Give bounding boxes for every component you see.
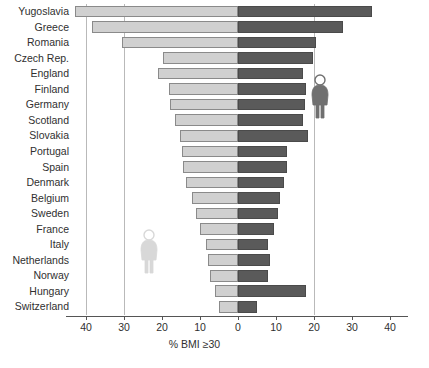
axis-tick	[162, 316, 163, 320]
category-label: Romania	[0, 35, 69, 51]
bar-men	[238, 161, 287, 173]
chart-row: Czech Rep.	[0, 51, 429, 67]
axis-tick	[200, 316, 201, 320]
chart-row: Netherlands	[0, 253, 429, 269]
chart-row: Sweden	[0, 206, 429, 222]
category-label: Switzerland	[0, 299, 69, 315]
bar-women	[186, 177, 238, 189]
axis-tick	[352, 316, 353, 320]
bar-women	[219, 301, 238, 313]
category-label: Czech Rep.	[0, 51, 69, 67]
category-label: Netherlands	[0, 253, 69, 269]
bar-women	[183, 161, 238, 173]
chart-row: Hungary	[0, 284, 429, 300]
bar-men	[238, 192, 280, 204]
bar-women	[175, 114, 238, 126]
axis-tick-label: 30	[109, 321, 139, 333]
bar-women	[75, 6, 238, 18]
axis-tick-label: 20	[299, 321, 329, 333]
bar-men	[238, 270, 268, 282]
category-label: Portugal	[0, 144, 69, 160]
axis-tick	[238, 316, 239, 320]
category-label: Finland	[0, 82, 69, 98]
axis-tick-label: 20	[147, 321, 177, 333]
bar-men	[238, 223, 274, 235]
category-label: Denmark	[0, 175, 69, 191]
female-figure-icon	[138, 229, 160, 279]
category-label: Sweden	[0, 206, 69, 222]
bar-men	[238, 68, 303, 80]
category-label: Scotland	[0, 113, 69, 129]
chart-row: Romania	[0, 35, 429, 51]
bar-women	[196, 208, 238, 220]
bar-men	[238, 6, 372, 18]
chart-row: Norway	[0, 268, 429, 284]
axis-tick-label: 10	[185, 321, 215, 333]
bar-men	[238, 83, 306, 95]
category-label: Germany	[0, 97, 69, 113]
bar-women	[92, 21, 238, 33]
category-label: Hungary	[0, 284, 69, 300]
bar-women	[122, 37, 238, 49]
axis-tick	[124, 316, 125, 320]
bar-women	[163, 52, 238, 64]
bar-women	[210, 270, 239, 282]
chart-row: Greece	[0, 20, 429, 36]
bar-men	[238, 239, 268, 251]
chart-row: Slovakia	[0, 128, 429, 144]
bar-men	[238, 177, 284, 189]
category-label: Belgium	[0, 191, 69, 207]
bar-men	[238, 114, 303, 126]
bar-women	[206, 239, 238, 251]
bar-women	[158, 68, 238, 80]
chart-row: Scotland	[0, 113, 429, 129]
axis-tick-label: 40	[375, 321, 405, 333]
category-label: England	[0, 66, 69, 82]
axis-tick	[86, 316, 87, 320]
axis-tick	[314, 316, 315, 320]
male-figure-icon	[309, 74, 331, 124]
bar-women	[170, 99, 238, 111]
chart-row: Italy	[0, 237, 429, 253]
axis-tick	[390, 316, 391, 320]
category-label: Spain	[0, 160, 69, 176]
bar-women	[208, 254, 238, 266]
chart-row: France	[0, 222, 429, 238]
x-axis-line	[66, 316, 408, 317]
axis-tick-label: 10	[261, 321, 291, 333]
bar-men	[238, 130, 308, 142]
bar-men	[238, 208, 278, 220]
category-label: Yugoslavia	[0, 4, 69, 20]
bar-women	[192, 192, 238, 204]
bar-women	[200, 223, 238, 235]
bar-men	[238, 146, 287, 158]
x-axis-title-text: % BMI ≥30	[169, 338, 220, 350]
chart-row: Belgium	[0, 191, 429, 207]
bar-women	[182, 146, 238, 158]
category-label: France	[0, 222, 69, 238]
bar-women	[169, 83, 238, 95]
chart-row: Germany	[0, 97, 429, 113]
chart-row: Portugal	[0, 144, 429, 160]
category-label: Greece	[0, 20, 69, 36]
category-label: Slovakia	[0, 128, 69, 144]
bar-men	[238, 37, 316, 49]
axis-tick-label: 30	[337, 321, 367, 333]
plot-area: YugoslaviaGreeceRomaniaCzech Rep.England…	[0, 0, 429, 368]
chart-row: England	[0, 66, 429, 82]
x-axis-title: % BMI ≥30	[0, 338, 429, 350]
bmi-diverging-bar-chart: YugoslaviaGreeceRomaniaCzech Rep.England…	[0, 0, 429, 368]
chart-row: Spain	[0, 160, 429, 176]
bar-men	[238, 285, 306, 297]
chart-row: Switzerland	[0, 299, 429, 315]
chart-row: Finland	[0, 82, 429, 98]
bar-men	[238, 52, 313, 64]
bar-women	[215, 285, 238, 297]
axis-tick	[276, 316, 277, 320]
bar-men	[238, 21, 343, 33]
category-label: Norway	[0, 268, 69, 284]
bar-men	[238, 254, 270, 266]
chart-row: Yugoslavia	[0, 4, 429, 20]
bar-men	[238, 99, 305, 111]
chart-row: Denmark	[0, 175, 429, 191]
